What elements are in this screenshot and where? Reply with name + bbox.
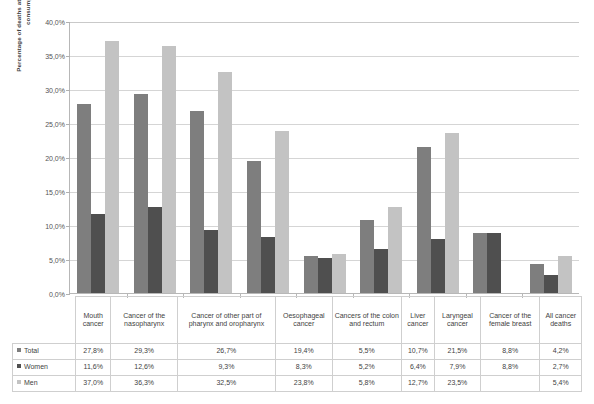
- legend-label: Men: [24, 379, 38, 386]
- bar-women: [204, 230, 218, 293]
- bar-women: [544, 275, 558, 293]
- bar-total: [134, 94, 148, 293]
- y-axis-tick-mark: [66, 294, 70, 295]
- table-column-header: Cancers of the colon and rectum: [332, 297, 401, 344]
- bar-women: [261, 237, 275, 293]
- bar-women: [374, 249, 388, 293]
- bar-total: [190, 111, 204, 293]
- bar-total: [530, 264, 544, 293]
- table-cell: 36,3%: [111, 376, 178, 392]
- table-row: Women11,6%12,6%9,3%8,3%5,2%6,4%7,9%8,8%2…: [13, 360, 582, 376]
- table-cell: 5,8%: [332, 376, 401, 392]
- bar-total: [304, 256, 318, 293]
- table-column-header: Oesophageal cancer: [275, 297, 332, 344]
- legend-swatch-icon: [17, 380, 21, 384]
- legend-label: Women: [24, 363, 48, 370]
- table-cell: 27,8%: [76, 344, 111, 360]
- bar-women: [91, 214, 105, 293]
- table-cell: 21,5%: [434, 344, 480, 360]
- table-cell: 19,4%: [275, 344, 332, 360]
- y-axis-title: Percentage of deaths attributable to alc…: [14, 0, 32, 80]
- table-cell: 6,4%: [401, 360, 434, 376]
- table-cell: 26,7%: [177, 344, 275, 360]
- bar-women: [318, 258, 332, 293]
- table-row: Total27,8%29,3%26,7%19,4%5,5%10,7%21,5%8…: [13, 344, 582, 360]
- table-corner-cell: [13, 297, 76, 344]
- bar-men: [218, 72, 232, 293]
- data-table: Mouth cancerCancer of the nasopharynxCan…: [12, 296, 582, 392]
- bar-total: [417, 147, 431, 293]
- bar-men: [162, 46, 176, 293]
- legend-item-women[interactable]: Women: [13, 360, 76, 376]
- bar-men: [388, 207, 402, 293]
- table-header-row: Mouth cancerCancer of the nasopharynxCan…: [13, 297, 582, 344]
- table-cell: 8,8%: [480, 360, 540, 376]
- plot-area: 40,0%35,0%30,0%25,0%20,0%15,0%10,0%5,0%0…: [69, 22, 579, 294]
- table-cell: 11,6%: [76, 360, 111, 376]
- table-cell: 5,2%: [332, 360, 401, 376]
- legend-label: Total: [24, 347, 39, 354]
- bar-men: [558, 256, 572, 293]
- bar-women: [148, 207, 162, 293]
- table-cell: 10,7%: [401, 344, 434, 360]
- table-cell: 23,8%: [275, 376, 332, 392]
- bar-group: [127, 22, 184, 293]
- table-column-header: Mouth cancer: [76, 297, 111, 344]
- table-column-header: All cancer deaths: [540, 297, 582, 344]
- table-cell: 5,5%: [332, 344, 401, 360]
- bar-group: [409, 22, 466, 293]
- table-column-header: Cancer of the female breast: [480, 297, 540, 344]
- bar-men: [445, 133, 459, 293]
- table-cell: 12,6%: [111, 360, 178, 376]
- bar-women: [431, 239, 445, 293]
- table-cell: 32,5%: [177, 376, 275, 392]
- bar-group: [523, 22, 580, 293]
- bar-men: [332, 254, 346, 293]
- bar-group: [353, 22, 410, 293]
- table-cell: 8,8%: [480, 344, 540, 360]
- bar-group: [183, 22, 240, 293]
- chart-figure: Percentage of deaths attributable to alc…: [0, 0, 594, 404]
- bar-men: [275, 131, 289, 293]
- table-cell: 2,7%: [540, 360, 582, 376]
- table-cell: 23,5%: [434, 376, 480, 392]
- table-column-header: Laryngeal cancer: [434, 297, 480, 344]
- table-cell: 37,0%: [76, 376, 111, 392]
- table-row: Men37,0%36,3%32,5%23,8%5,8%12,7%23,5%5,4…: [13, 376, 582, 392]
- table-column-header: Cancer of other part of pharynx and orop…: [177, 297, 275, 344]
- bar-total: [360, 220, 374, 293]
- bar-group: [70, 22, 127, 293]
- bar-total: [247, 161, 261, 293]
- table-cell: 29,3%: [111, 344, 178, 360]
- bar-groups: [70, 22, 579, 293]
- table-column-header: Cancer of the nasopharynx: [111, 297, 178, 344]
- legend-item-total[interactable]: Total: [13, 344, 76, 360]
- bar-total: [77, 104, 91, 293]
- table-cell: 12,7%: [401, 376, 434, 392]
- plot-wrapper: 40,0%35,0%30,0%25,0%20,0%15,0%10,0%5,0%0…: [69, 22, 579, 294]
- table-cell: 9,3%: [177, 360, 275, 376]
- legend-swatch-icon: [17, 348, 21, 352]
- bar-women: [487, 233, 501, 293]
- table-cell: [480, 376, 540, 392]
- legend-swatch-icon: [17, 364, 21, 368]
- bar-total: [473, 233, 487, 293]
- table-cell: 5,4%: [540, 376, 582, 392]
- legend-item-men[interactable]: Men: [13, 376, 76, 392]
- table-cell: 7,9%: [434, 360, 480, 376]
- table-column-header: Liver cancer: [401, 297, 434, 344]
- table-cell: 8,3%: [275, 360, 332, 376]
- table-cell: 4,2%: [540, 344, 582, 360]
- bar-group: [296, 22, 353, 293]
- bar-group: [240, 22, 297, 293]
- bar-men: [105, 41, 119, 293]
- bar-group: [466, 22, 523, 293]
